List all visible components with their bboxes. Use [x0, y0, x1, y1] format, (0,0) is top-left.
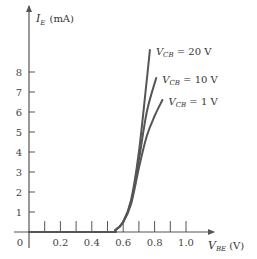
ie-vbe-characteristic-chart: 1234567800.20.40.60.81.0VCB = 20 VVCB = … [0, 0, 257, 259]
x-tick-label: 0.6 [115, 237, 131, 248]
y-tick-label: 3 [16, 167, 22, 178]
x-tick-label: 0.8 [147, 237, 163, 248]
y-tick-label: 4 [16, 147, 22, 158]
axis-ticks [29, 72, 186, 232]
curve-label-sub: CB [163, 51, 174, 59]
x-tick-label: 0.2 [52, 237, 68, 248]
x-tick-label: 0.4 [84, 237, 100, 248]
x-axis-label-sub: BE [215, 245, 226, 253]
y-axis-label-sub: E [39, 19, 45, 27]
y-axis-label-unit: (mA) [49, 13, 74, 24]
y-tick-label: 1 [16, 207, 22, 218]
y-tick-label: 6 [16, 107, 22, 118]
curve-label: VCB = 20 V [156, 46, 212, 59]
curve-label-sub: CB [169, 79, 180, 87]
curves [29, 50, 162, 232]
x-axis-label-unit: (V) [229, 240, 244, 251]
curve-label-rest: = 20 V [174, 46, 213, 57]
curve-label-sub: CB [176, 101, 187, 109]
y-tick-label: 8 [16, 67, 22, 78]
curve-label: VCB = 10 V [162, 74, 218, 87]
y-axis-label: IE(mA) [35, 12, 74, 27]
curve-label-rest: = 10 V [180, 74, 219, 85]
curve-10v [29, 78, 156, 232]
x-tick-label: 1.0 [178, 237, 194, 248]
labels: 1234567800.20.40.60.81.0VCB = 20 VVCB = … [16, 12, 245, 253]
y-tick-label: 7 [16, 87, 22, 98]
curve-label-rest: = 1 V [186, 96, 218, 107]
x-axis-label: VBE(V) [208, 239, 244, 253]
x-tick-label: 0 [17, 237, 23, 248]
curve-label: VCB = 1 V [168, 96, 218, 109]
y-tick-label: 5 [16, 127, 22, 138]
axes [14, 6, 214, 248]
y-tick-label: 2 [16, 187, 22, 198]
